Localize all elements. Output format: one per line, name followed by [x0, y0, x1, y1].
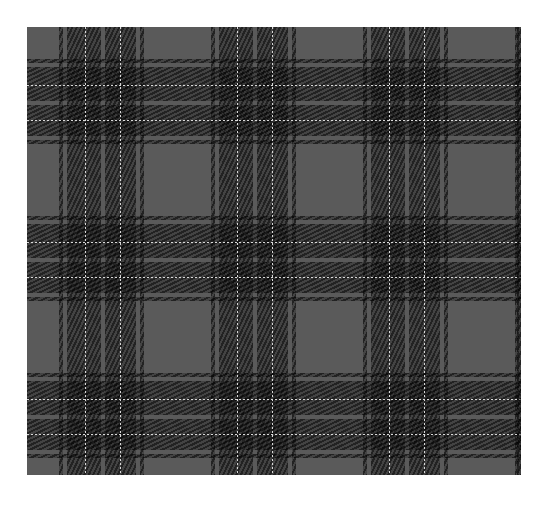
pinstripe-vertical — [424, 27, 425, 475]
dark-band-horizontal — [27, 67, 521, 101]
dark-band-horizontal — [27, 454, 521, 458]
pinstripe-vertical — [272, 27, 273, 475]
pinstripe-horizontal — [27, 277, 521, 278]
dark-band-horizontal — [27, 224, 521, 258]
tartan-pattern — [27, 27, 521, 475]
edge-stripe — [517, 27, 521, 475]
pinstripe-vertical — [120, 27, 121, 475]
dark-band-horizontal — [27, 373, 521, 377]
pinstripe-vertical — [237, 27, 238, 475]
dark-band-horizontal — [27, 216, 521, 220]
pinstripe-vertical — [389, 27, 390, 475]
pinstripe-horizontal — [27, 85, 521, 86]
pinstripe-horizontal — [27, 399, 521, 400]
pinstripe-horizontal — [27, 242, 521, 243]
pinstripe-horizontal — [27, 434, 521, 435]
dark-band-horizontal — [27, 59, 521, 63]
dark-band-horizontal — [27, 297, 521, 301]
pinstripe-horizontal — [27, 120, 521, 121]
dark-band-horizontal — [27, 140, 521, 144]
dark-band-horizontal — [27, 381, 521, 415]
pinstripe-vertical — [85, 27, 86, 475]
